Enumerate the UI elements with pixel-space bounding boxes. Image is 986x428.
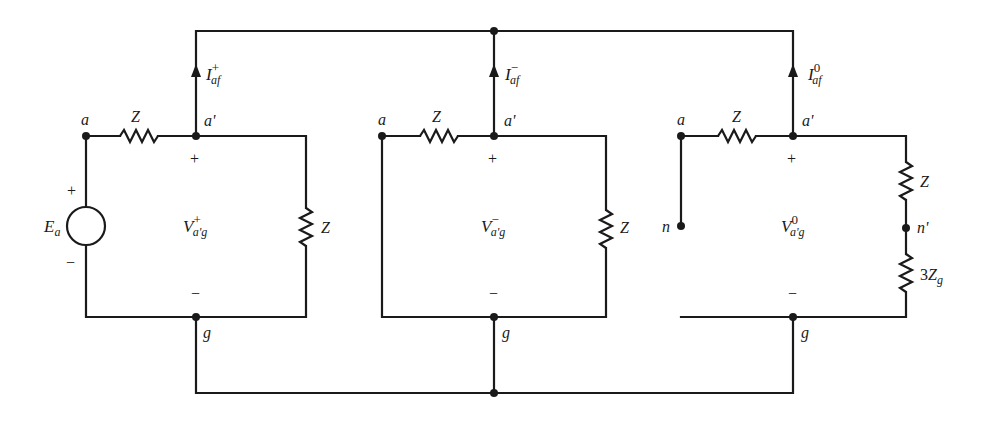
- current-arrow-icon: [191, 64, 201, 77]
- current-label: I−af: [504, 60, 521, 87]
- source-label: Ea: [43, 217, 60, 239]
- zero-sequence-network: I0af a a' Z Z n n' 3Zg + − V0a'g g: [662, 60, 943, 342]
- current-arrow-icon: [788, 64, 798, 77]
- voltage-source-icon: [67, 207, 105, 245]
- minus-sign: −: [788, 285, 797, 302]
- node-a-label: a: [677, 111, 685, 128]
- node-a-label: a: [81, 111, 89, 128]
- node-a-prime-dot: [490, 132, 498, 140]
- voltage-label: V+a'g: [183, 212, 207, 239]
- source-minus-sign: −: [66, 254, 75, 271]
- node-g-dot: [192, 313, 200, 321]
- series-impedance-label: Z: [131, 108, 141, 125]
- node-a-prime-label: a': [802, 112, 814, 129]
- ground-impedance-label: 3Zg: [920, 266, 943, 287]
- node-g-dot: [789, 313, 797, 321]
- shunt-impedance-label: Z: [920, 173, 930, 190]
- sequence-network-diagram: I+af a a' Z Z + − + − Ea V+a'g g I−af a …: [0, 0, 986, 428]
- bottom-bus-junction: [490, 389, 498, 397]
- node-a-dot: [378, 132, 386, 140]
- minus-sign: −: [489, 285, 498, 302]
- minus-sign: −: [191, 285, 200, 302]
- voltage-label: V−a'g: [481, 212, 505, 239]
- plus-sign: +: [488, 150, 497, 167]
- shunt-impedance-label: Z: [620, 219, 630, 236]
- plus-sign: +: [190, 150, 199, 167]
- node-g-dot: [490, 313, 498, 321]
- node-a-label: a: [378, 111, 386, 128]
- current-label: I+af: [205, 60, 222, 87]
- series-impedance-resistor: [120, 130, 158, 142]
- node-n-prime-label: n': [917, 219, 929, 236]
- node-g-label: g: [502, 324, 510, 342]
- plus-sign: +: [787, 150, 796, 167]
- series-impedance-resistor: [718, 130, 756, 142]
- node-n-dot: [677, 222, 685, 230]
- shunt-impedance-resistor: [900, 162, 912, 200]
- shunt-impedance-resistor: [600, 210, 612, 248]
- voltage-label: V0a'g: [781, 212, 804, 239]
- node-a-prime-label: a': [504, 112, 516, 129]
- bottom-bus: [196, 317, 793, 397]
- top-bus: [196, 27, 793, 136]
- top-bus-junction: [490, 27, 498, 35]
- node-g-label: g: [203, 324, 211, 342]
- shunt-impedance-label: Z: [321, 219, 331, 236]
- node-a-dot: [677, 132, 685, 140]
- current-label: I0af: [807, 60, 823, 87]
- current-arrow-icon: [489, 64, 499, 77]
- ground-impedance-resistor: [900, 254, 912, 292]
- node-g-label: g: [801, 324, 809, 342]
- series-impedance-label: Z: [732, 108, 742, 125]
- shunt-impedance-resistor: [300, 208, 312, 246]
- node-a-prime-label: a': [204, 112, 216, 129]
- node-n-label: n: [662, 218, 670, 235]
- series-impedance-resistor: [420, 130, 458, 142]
- node-a-dot: [82, 132, 90, 140]
- positive-sequence-network: I+af a a' Z Z + − + − Ea V+a'g g: [43, 60, 331, 342]
- series-impedance-label: Z: [432, 108, 442, 125]
- node-a-prime-dot: [192, 132, 200, 140]
- negative-sequence-network: I−af a a' Z Z + − V−a'g g: [378, 60, 630, 342]
- source-plus-sign: +: [67, 182, 76, 199]
- node-a-prime-dot: [789, 132, 797, 140]
- node-n-prime-dot: [902, 224, 910, 232]
